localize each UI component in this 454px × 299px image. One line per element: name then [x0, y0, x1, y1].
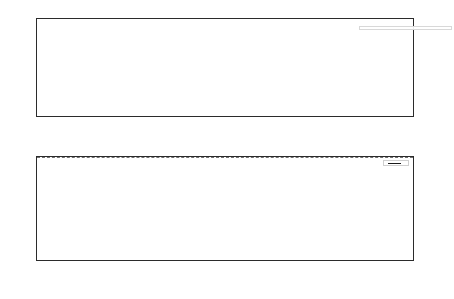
- top-chart-plot-area: [36, 18, 414, 117]
- top-chart-series-lines: [37, 19, 413, 116]
- top-chart-legend[interactable]: [359, 26, 452, 30]
- bottom-chart-plot-area: [36, 156, 414, 261]
- overall-central-area-chart: [0, 142, 454, 299]
- bottom-chart-series-line: [37, 157, 413, 260]
- central-area-legend[interactable]: [383, 160, 409, 166]
- chart-page: [0, 0, 454, 299]
- central-planning-area-chart: [0, 4, 454, 136]
- central-area-line-swatch: [388, 163, 401, 164]
